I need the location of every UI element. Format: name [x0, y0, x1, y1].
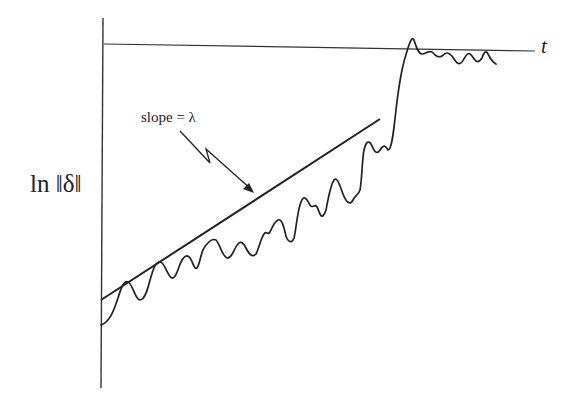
- slope-annotation: slope = λ: [141, 109, 196, 126]
- y-axis-label: ln ‖δ‖: [30, 170, 82, 198]
- t-axis-label: t: [541, 34, 547, 59]
- arrowhead-icon: [243, 183, 254, 193]
- diagram-canvas: [0, 0, 575, 410]
- y-axis: [101, 18, 103, 388]
- annotation-arrow: [180, 131, 252, 190]
- ln-delta-curve: [101, 39, 496, 325]
- t-axis: [104, 44, 535, 51]
